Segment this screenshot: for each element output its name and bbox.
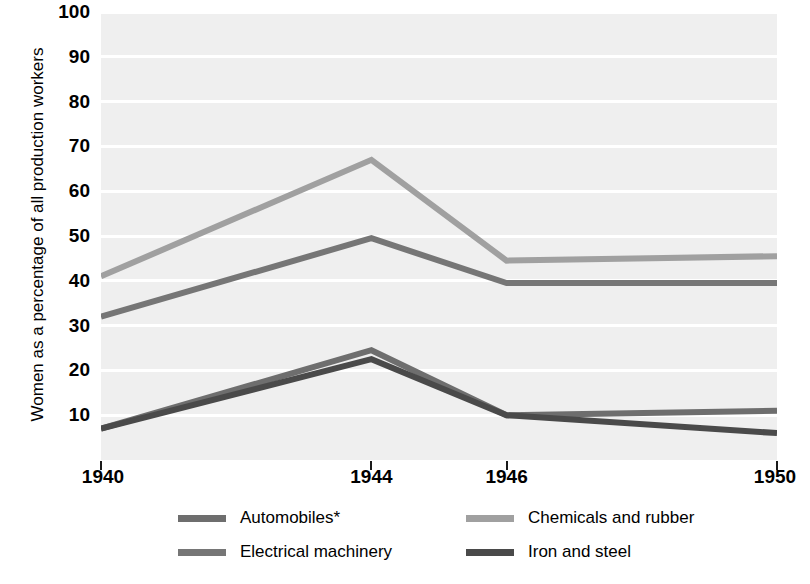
legend-label: Chemicals and rubber — [528, 508, 694, 528]
y-tick-label: 30 — [36, 316, 90, 335]
data-lines-layer — [101, 12, 777, 460]
y-tick-label: 20 — [36, 360, 90, 379]
x-tick-label: 1946 — [467, 466, 547, 488]
legend-label: Iron and steel — [528, 542, 631, 562]
y-tick-label: 40 — [36, 271, 90, 290]
x-tick-label: 1940 — [63, 466, 143, 488]
data-line — [101, 238, 777, 316]
legend-label: Automobiles* — [240, 508, 340, 528]
legend-label: Electrical machinery — [240, 542, 392, 562]
legend-entry: Electrical machinery — [178, 537, 392, 567]
legend-entry: Iron and steel — [466, 537, 631, 567]
legend-color-swatch — [178, 515, 226, 522]
y-tick-label: 90 — [36, 47, 90, 66]
y-tick-label: 70 — [36, 136, 90, 155]
legend-color-swatch — [466, 515, 514, 522]
legend-color-swatch — [178, 549, 226, 556]
y-tick-label: 10 — [36, 405, 90, 424]
legend-entry: Automobiles* — [178, 503, 340, 533]
plot-area — [101, 12, 777, 460]
x-tick-label: 1944 — [331, 466, 411, 488]
x-tick-label: 1950 — [735, 466, 810, 488]
legend-color-swatch — [466, 549, 514, 556]
y-tick-label: 60 — [36, 181, 90, 200]
y-tick-label: 80 — [36, 92, 90, 111]
line-chart-figure: Women as a percentage of all production … — [0, 0, 810, 584]
y-tick-label: 50 — [36, 226, 90, 245]
legend-entry: Chemicals and rubber — [466, 503, 694, 533]
y-tick-label: 100 — [36, 2, 90, 21]
chart-legend: Automobiles*Chemicals and rubberElectric… — [178, 503, 778, 573]
